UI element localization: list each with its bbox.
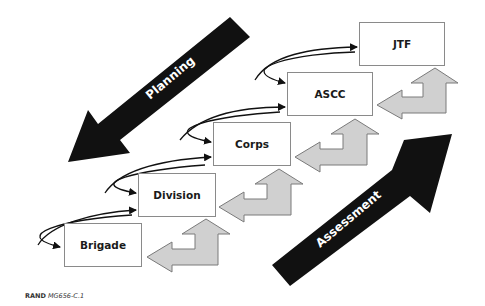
- feedback-arrow-ascc-jtf: [377, 68, 458, 119]
- credit-org: RAND: [25, 292, 46, 300]
- figure-credit: RAND MG656-C.1: [25, 292, 84, 300]
- box-jtf: JTF: [359, 22, 445, 66]
- box-brigade: Brigade: [64, 223, 142, 267]
- feedback-arrow-brigade-division: [147, 219, 230, 272]
- feedback-arrow-division-corps: [219, 169, 303, 222]
- feedback-arrow-corps-ascc: [295, 119, 379, 172]
- box-corps: Corps: [213, 122, 291, 166]
- box-ascc: ASCC: [287, 72, 373, 116]
- credit-id: MG656-C.1: [48, 292, 84, 300]
- box-division: Division: [138, 173, 216, 217]
